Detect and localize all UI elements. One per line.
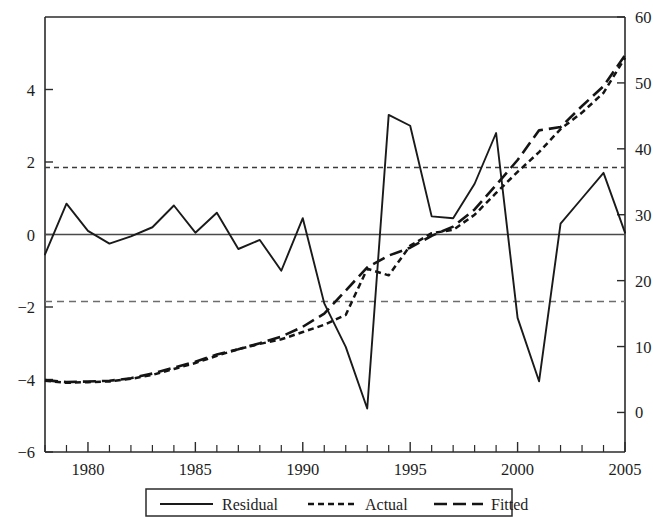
right-tick-label: 50 xyxy=(635,74,652,93)
left-tick-label: −4 xyxy=(17,371,35,390)
bottom-axis-ticks: 198019851990199520002005 xyxy=(45,442,642,479)
legend-border xyxy=(146,489,512,516)
legend-label-residual: Residual xyxy=(222,496,279,513)
x-tick-label: 2000 xyxy=(501,460,534,479)
reference-lines xyxy=(45,167,625,301)
left-tick-label: 2 xyxy=(27,153,35,172)
chart-legend: Residual Actual Fitted xyxy=(146,489,528,516)
left-tick-label: 0 xyxy=(27,226,35,245)
left-tick-label: 4 xyxy=(27,81,35,100)
series-line-residual xyxy=(45,115,625,409)
residual-actual-fitted-chart: 420−2−4−6 6050403020100 1980198519901995… xyxy=(0,0,653,517)
right-tick-label: 40 xyxy=(635,140,652,159)
legend-label-actual: Actual xyxy=(365,496,408,513)
right-tick-label: 60 xyxy=(635,8,652,27)
x-tick-label: 1985 xyxy=(179,460,212,479)
series-line-actual xyxy=(45,58,625,383)
x-tick-label: 2005 xyxy=(609,460,642,479)
series-line-fitted xyxy=(45,55,625,382)
legend-label-fitted: Fitted xyxy=(491,496,528,513)
left-tick-label: −6 xyxy=(17,443,35,462)
chart-canvas: 420−2−4−6 6050403020100 1980198519901995… xyxy=(0,0,653,517)
x-tick-label: 1980 xyxy=(71,460,104,479)
x-tick-label: 1995 xyxy=(394,460,427,479)
left-axis-ticks: 420−2−4−6 xyxy=(17,81,53,463)
right-tick-label: 0 xyxy=(635,403,643,422)
right-tick-label: 10 xyxy=(635,338,652,357)
data-series xyxy=(45,55,625,408)
left-tick-label: −2 xyxy=(17,298,35,317)
right-tick-label: 20 xyxy=(635,272,652,291)
right-tick-label: 30 xyxy=(635,206,652,225)
x-tick-label: 1990 xyxy=(286,460,319,479)
right-axis-ticks: 6050403020100 xyxy=(617,8,652,422)
